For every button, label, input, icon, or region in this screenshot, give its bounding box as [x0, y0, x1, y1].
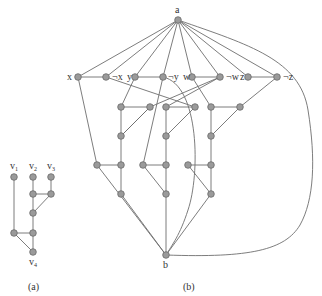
node-not-y [160, 74, 167, 81]
label-not-y: ¬y [168, 71, 179, 82]
node-v2 [30, 174, 37, 181]
node [118, 162, 125, 169]
label-v4: v4 [29, 256, 37, 268]
node-not-z [274, 74, 281, 81]
node [163, 191, 170, 198]
node [208, 133, 215, 140]
graph-b-edges-from-a [78, 20, 313, 225]
label-w: w [183, 71, 191, 82]
graph-b-nodes [75, 17, 281, 259]
node [208, 104, 215, 111]
label-b: b [163, 259, 168, 270]
label-a: a [175, 4, 180, 15]
node [94, 162, 101, 169]
caption-b: (b) [183, 281, 195, 293]
node-z [245, 74, 252, 81]
node-v3 [48, 174, 55, 181]
node [140, 162, 147, 169]
node-b [163, 252, 170, 259]
node [118, 104, 125, 111]
node [48, 191, 55, 198]
node-v1 [11, 174, 18, 181]
graph-a: v1 v2 v3 v4 (a) [10, 160, 55, 293]
node [163, 104, 170, 111]
label-not-z: ¬z [283, 71, 294, 82]
node-a [175, 17, 182, 24]
node-not-x [103, 74, 110, 81]
label-v2: v2 [29, 160, 37, 172]
node [30, 191, 37, 198]
label-v1: v1 [10, 160, 18, 172]
node [208, 191, 215, 198]
label-not-x: ¬x [112, 71, 123, 82]
node [30, 230, 37, 237]
node [208, 162, 215, 169]
node [163, 133, 170, 140]
figure-canvas: a x ¬x y ¬y w ¬w z ¬z b (b) [0, 0, 322, 296]
node-not-w [217, 74, 224, 81]
node-x [75, 74, 82, 81]
node-v4 [30, 249, 37, 256]
node [118, 133, 125, 140]
node [118, 191, 125, 198]
node [163, 162, 170, 169]
label-v3: v3 [47, 160, 55, 172]
graph-b: a x ¬x y ¬y w ¬w z ¬z b (b) [67, 4, 313, 293]
node [11, 230, 18, 237]
node [237, 104, 244, 111]
caption-a: (a) [28, 281, 39, 293]
node-y [132, 74, 139, 81]
label-x: x [67, 71, 72, 82]
node [147, 104, 154, 111]
node [185, 162, 192, 169]
node [192, 104, 199, 111]
label-not-w: ¬w [226, 71, 240, 82]
node [30, 210, 37, 217]
graph-a-nodes [11, 174, 55, 256]
graph-b-arc-a-b [166, 225, 300, 256]
label-z: z [240, 71, 245, 82]
label-y: y [127, 71, 132, 82]
